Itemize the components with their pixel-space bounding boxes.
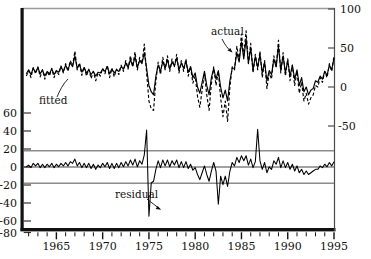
x-tick-label-1990: 1990: [274, 240, 302, 253]
x-tick-label-1970: 1970: [89, 240, 117, 253]
x-tick-label-1965: 1965: [42, 240, 70, 253]
right-tick-label-minus50: -50: [338, 120, 356, 133]
annotation-residual: residual: [115, 188, 161, 210]
actual-dashed-series: [26, 31, 334, 121]
bottom-axis-spine: [21, 228, 336, 231]
chart-frame: [21, 8, 336, 231]
left-tick-label-minus40: -40: [0, 197, 17, 210]
right-tick-label-0: 0: [340, 81, 347, 94]
left-tick-label-40: 40: [3, 125, 17, 138]
chart-figure: 100 50 0 -50 60 40 20 0 -20 -40 -60 -80: [0, 0, 371, 259]
left-tick-label-60: 60: [3, 107, 17, 120]
right-tick-label-50: 50: [340, 42, 354, 55]
x-tick-label-1975: 1975: [135, 240, 163, 253]
right-axis-ticks: 100 50 0 -50: [328, 3, 361, 133]
residual-series: [26, 129, 334, 216]
annotation-actual: actual: [211, 25, 244, 53]
fitted-label: fitted: [39, 94, 68, 106]
residual-label: residual: [115, 188, 159, 200]
x-tick-label-1980: 1980: [181, 240, 209, 253]
left-axis-spine: [21, 8, 24, 231]
x-tick-label-1985: 1985: [227, 240, 255, 253]
chart-plot-area: 100 50 0 -50 60 40 20 0 -20 -40 -60 -80: [0, 0, 371, 259]
left-tick-label-minus20: -20: [0, 179, 17, 192]
x-axis-tick-labels: 1965197019751980198519901995: [42, 240, 348, 253]
actual-label: actual: [211, 25, 244, 37]
fitted-solid-series: [26, 39, 334, 101]
left-tick-label-0: 0: [10, 161, 17, 174]
left-axis-ticks: 60 40 20 0 -20 -40 -60 -80: [0, 107, 31, 240]
annotation-fitted: fitted: [39, 79, 68, 106]
right-tick-label-100: 100: [340, 3, 361, 16]
x-axis-ticks: [29, 232, 334, 239]
x-tick-label-1995: 1995: [320, 240, 348, 253]
left-tick-label-minus80: -80: [0, 227, 17, 240]
left-tick-label-20: 20: [3, 143, 17, 156]
